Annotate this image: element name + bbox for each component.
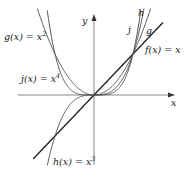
short-label-j: j [126, 24, 131, 35]
function-graph: x y g(x) = x2 j(x) = x4 h(x) = x3 f(x) =… [0, 0, 186, 170]
y-axis-arrow-icon [92, 14, 97, 21]
y-axis-label: y [81, 15, 88, 26]
label-g: g(x) = x2 [4, 30, 46, 42]
curves-group [33, 9, 163, 166]
x-axis-label: x [171, 97, 177, 108]
label-j: j(x) = x4 [19, 72, 60, 84]
short-label-h: h [138, 7, 144, 18]
label-f: f(x) = x [144, 44, 181, 55]
short-label-g: g [146, 25, 152, 36]
label-h: h(x) = x3 [53, 155, 95, 167]
